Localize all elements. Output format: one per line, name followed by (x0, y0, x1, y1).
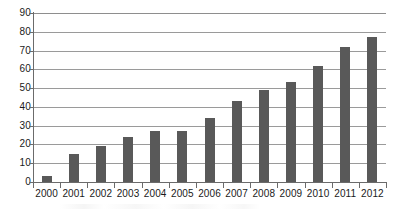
x-tick-label-2000: 2000 (33, 188, 60, 200)
y-tick-label-20: 20 (3, 139, 31, 149)
bottom-edge-artifact (60, 204, 260, 209)
bar-2007 (232, 101, 242, 182)
y-tick-label-40: 40 (3, 102, 31, 112)
y-tick-label-70: 70 (3, 46, 31, 56)
y-tick-label-60: 60 (3, 64, 31, 74)
y-tick-label-90: 90 (3, 8, 31, 18)
x-tick-label-2005: 2005 (169, 188, 196, 200)
x-tick-label-2009: 2009 (277, 188, 304, 200)
x-tick-label-2003: 2003 (114, 188, 141, 200)
bar-chart: 0102030405060708090 20002001200220032004… (0, 0, 398, 213)
bar-2002 (96, 146, 106, 182)
y-tick-label-30: 30 (3, 121, 31, 131)
x-tick-label-2002: 2002 (87, 188, 114, 200)
x-tick-label-2008: 2008 (250, 188, 277, 200)
x-axis-labels: 2000200120022003200420052006200720082009… (33, 188, 387, 202)
bar-2003 (123, 137, 133, 182)
bars-layer (33, 13, 386, 182)
x-tick-label-2001: 2001 (60, 188, 87, 200)
y-axis-labels: 0102030405060708090 (0, 0, 31, 213)
x-tick-label-2007: 2007 (223, 188, 250, 200)
x-tick-label-2010: 2010 (305, 188, 332, 200)
y-tick-label-10: 10 (3, 158, 31, 168)
bar-2011 (340, 47, 350, 182)
bar-2008 (259, 90, 269, 182)
bar-2005 (177, 131, 187, 182)
bar-2012 (367, 37, 377, 182)
bar-2010 (313, 66, 323, 182)
x-tick-label-2004: 2004 (142, 188, 169, 200)
y-tick-label-50: 50 (3, 83, 31, 93)
bar-2006 (205, 118, 215, 182)
y-tick-label-80: 80 (3, 27, 31, 37)
x-tick-label-2012: 2012 (359, 188, 386, 200)
y-tick-label-0: 0 (3, 177, 31, 187)
x-tick-label-2006: 2006 (196, 188, 223, 200)
bar-2009 (286, 82, 296, 182)
bar-2001 (69, 154, 79, 182)
x-tick-label-2011: 2011 (332, 188, 359, 200)
bar-2004 (150, 131, 160, 182)
